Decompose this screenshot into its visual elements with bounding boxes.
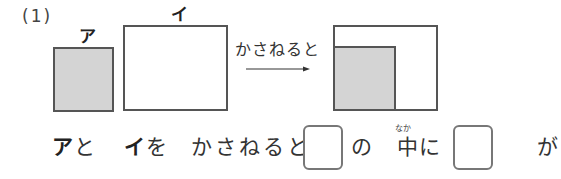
- arrow-right-icon: [246, 65, 310, 73]
- problem-number: (1): [22, 6, 52, 26]
- combined-inner-shaded-rect: [333, 46, 396, 111]
- naka-ruby: なか: [395, 122, 411, 133]
- sentence-label-a: ア: [52, 130, 73, 160]
- overlap-caption: かさねると: [235, 36, 320, 60]
- shape-i-label: イ: [171, 0, 188, 25]
- shape-a-label: ア: [79, 22, 96, 47]
- sentence-label-i: イ: [124, 130, 145, 160]
- answer-box-2[interactable]: [453, 125, 493, 170]
- sentence-kasaneruto: かさねると,: [191, 130, 321, 160]
- sentence-particle-to: と: [74, 130, 95, 160]
- sentence-particle-ni: に: [419, 130, 440, 160]
- shape-i-rect: [123, 25, 228, 111]
- sentence-no: の: [351, 130, 372, 160]
- sentence-naka-kanji: 中: [397, 130, 418, 160]
- sentence-ga: が: [537, 130, 558, 160]
- shape-a-rect: [53, 47, 114, 112]
- sentence-particle-wo: を: [146, 130, 167, 160]
- answer-box-1[interactable]: [303, 125, 343, 170]
